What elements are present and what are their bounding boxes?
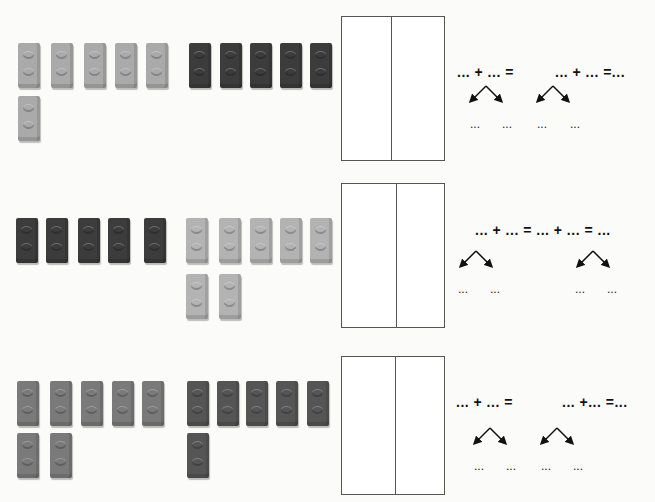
- brick-stud-icon: [151, 68, 162, 76]
- lego-brick: [17, 381, 39, 426]
- lego-brick: [280, 218, 302, 263]
- equation-left-3: ... + ... =: [456, 394, 513, 410]
- brick-stud-icon: [255, 226, 266, 234]
- brick-stud-icon: [23, 51, 34, 59]
- brick-stud-icon: [312, 389, 323, 397]
- answer-blank[interactable]: ...: [474, 459, 484, 473]
- lego-brick: [81, 381, 103, 426]
- split-arrows-icon: [456, 250, 496, 272]
- brick-stud-icon: [191, 226, 202, 234]
- lego-brick: [146, 43, 168, 88]
- brick-stud-icon: [23, 121, 34, 129]
- brick-stud-icon: [83, 226, 94, 234]
- answer-blank[interactable]: ...: [570, 117, 580, 131]
- lego-brick: [78, 218, 100, 263]
- split-arrows-icon: [533, 85, 573, 107]
- brick-stud-icon: [22, 458, 33, 466]
- answer-blank[interactable]: ...: [502, 117, 512, 131]
- answer-blank[interactable]: ...: [506, 459, 516, 473]
- brick-stud-icon: [149, 226, 160, 234]
- brick-stud-icon: [312, 406, 323, 414]
- brick-stud-icon: [147, 406, 158, 414]
- brick-stud-icon: [194, 51, 205, 59]
- brick-stud-icon: [113, 226, 124, 234]
- lego-brick: [51, 43, 73, 88]
- lego-brick: [115, 43, 137, 88]
- brick-stud-icon: [285, 243, 296, 251]
- brick-stud-icon: [151, 51, 162, 59]
- lego-brick: [217, 381, 239, 426]
- brick-stud-icon: [224, 282, 235, 290]
- equation-full-2: ... + ... = ... + ... = ...: [475, 222, 611, 238]
- split-box[interactable]: [341, 356, 445, 495]
- lego-brick: [186, 274, 208, 319]
- brick-stud-icon: [22, 406, 33, 414]
- brick-stud-icon: [120, 68, 131, 76]
- brick-stud-icon: [192, 389, 203, 397]
- lego-brick: [187, 433, 209, 478]
- equation-left-1: ... + ... =: [457, 64, 514, 80]
- brick-stud-icon: [192, 441, 203, 449]
- brick-stud-icon: [192, 406, 203, 414]
- box-divider: [396, 184, 397, 327]
- answer-blank[interactable]: ...: [573, 459, 583, 473]
- box-divider: [391, 17, 392, 160]
- lego-brick: [189, 43, 211, 88]
- brick-stud-icon: [23, 104, 34, 112]
- answer-blank[interactable]: ...: [537, 117, 547, 131]
- brick-stud-icon: [255, 243, 266, 251]
- brick-stud-icon: [113, 243, 124, 251]
- brick-stud-icon: [22, 389, 33, 397]
- brick-stud-icon: [224, 299, 235, 307]
- brick-stud-icon: [225, 51, 236, 59]
- lego-brick: [144, 218, 166, 263]
- lego-brick: [219, 218, 241, 263]
- brick-stud-icon: [255, 68, 266, 76]
- brick-stud-icon: [255, 51, 266, 59]
- brick-stud-icon: [225, 68, 236, 76]
- brick-stud-icon: [315, 68, 326, 76]
- brick-stud-icon: [55, 441, 66, 449]
- lego-brick: [307, 381, 329, 426]
- answer-blank[interactable]: ...: [458, 282, 468, 296]
- equation-right-1: ... + ... =...: [555, 64, 625, 80]
- lego-brick: [219, 274, 241, 319]
- answer-blank[interactable]: ...: [541, 459, 551, 473]
- lego-brick: [50, 381, 72, 426]
- split-arrows-icon: [466, 85, 506, 107]
- brick-stud-icon: [89, 68, 100, 76]
- brick-stud-icon: [222, 389, 233, 397]
- brick-stud-icon: [194, 68, 205, 76]
- brick-stud-icon: [191, 282, 202, 290]
- answer-blank[interactable]: ...: [575, 282, 585, 296]
- brick-stud-icon: [55, 406, 66, 414]
- brick-stud-icon: [55, 389, 66, 397]
- brick-stud-icon: [285, 226, 296, 234]
- brick-stud-icon: [86, 389, 97, 397]
- lego-brick: [310, 218, 332, 263]
- lego-brick: [142, 381, 164, 426]
- lego-brick: [17, 433, 39, 478]
- lego-brick: [18, 43, 40, 88]
- brick-stud-icon: [191, 299, 202, 307]
- brick-stud-icon: [285, 51, 296, 59]
- lego-brick: [246, 381, 268, 426]
- lego-brick: [276, 381, 298, 426]
- box-divider: [395, 357, 396, 494]
- lego-brick: [108, 218, 130, 263]
- answer-blank[interactable]: ...: [607, 282, 617, 296]
- brick-stud-icon: [251, 389, 262, 397]
- brick-stud-icon: [86, 406, 97, 414]
- answer-blank[interactable]: ...: [490, 282, 500, 296]
- lego-brick: [186, 218, 208, 263]
- brick-stud-icon: [117, 406, 128, 414]
- answer-blank[interactable]: ...: [470, 117, 480, 131]
- brick-stud-icon: [192, 458, 203, 466]
- brick-stud-icon: [281, 389, 292, 397]
- brick-stud-icon: [22, 441, 33, 449]
- brick-stud-icon: [120, 51, 131, 59]
- split-box[interactable]: [341, 183, 445, 328]
- brick-stud-icon: [281, 406, 292, 414]
- brick-stud-icon: [315, 226, 326, 234]
- split-box[interactable]: [341, 16, 445, 161]
